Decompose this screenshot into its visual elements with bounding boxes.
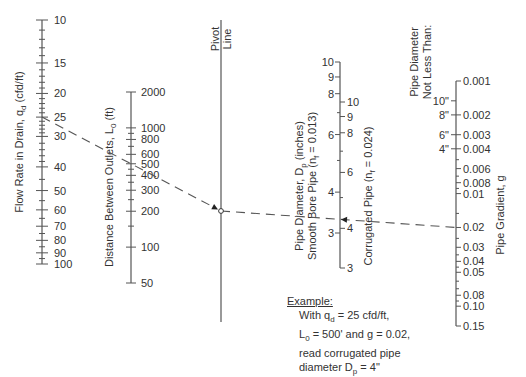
flow-tick-label: 30 (54, 130, 66, 142)
distance-tick-label: 300 (141, 184, 159, 196)
smooth-pipe-tick-label: 9 (328, 71, 334, 83)
example-line-2: L0 = 500' and g = 0.02, (299, 327, 410, 346)
smooth-pipe-tick-label: 10 (322, 56, 334, 68)
flow-tick-label: 100 (54, 258, 72, 270)
flow-axis-title: Flow Rate in Drain, qd (cfd/ft) (13, 71, 28, 212)
distance-tick-label: 400 (141, 169, 159, 181)
corrugated-pipe-tick-label: 10 (347, 96, 359, 108)
gradient-tick-label: 0.006 (463, 163, 491, 175)
example-heading: Example: (287, 294, 410, 308)
corrugated-pipe-tick-label: 4 (347, 222, 353, 234)
distance-axis-title: Distance Between Outlets, L0 (ft) (103, 107, 118, 267)
min-diameter-title-2: Not Less Than: (421, 25, 433, 99)
flow-tick-label: 60 (54, 204, 66, 216)
distance-tick-label: 100 (141, 241, 159, 253)
solution-line-1 (42, 117, 217, 209)
pivot-point-marker (219, 209, 224, 214)
distance-tick-label: 2000 (141, 86, 165, 98)
flow-tick-label: 80 (54, 234, 66, 246)
smooth-pipe-axis-subtitle: Smooth Bore Pipe (nf = 0.013) (306, 112, 321, 260)
gradient-tick-label: 0.15 (463, 320, 484, 332)
nomograph: 1015202530405060708090100200010008006005… (0, 0, 526, 377)
min-diameter-title: Pipe Diameter (408, 27, 420, 97)
flow-tick-label: 70 (54, 220, 66, 232)
min-diameter-label: 8" (439, 109, 449, 121)
smooth-pipe-tick-label: 8 (328, 88, 334, 100)
gradient-tick-label: 0.10 (463, 300, 484, 312)
flow-tick-label: 10 (54, 14, 66, 26)
min-diameter-label: 4" (439, 143, 449, 155)
pivot-line-label-2: Line (221, 29, 233, 50)
gradient-tick-label: 0.004 (463, 143, 491, 155)
gradient-axis-title: Pipe Gradient, g (494, 175, 506, 255)
example-text: With qd = 25 cfd/ft, L0 = 500' and g = 0… (287, 308, 410, 377)
solution-line-2 (221, 211, 456, 227)
gradient-tick-label: 0.003 (463, 129, 491, 141)
min-diameter-label: 6" (439, 129, 449, 141)
flow-tick-label: 20 (54, 87, 66, 99)
distance-tick-label: 50 (141, 277, 153, 289)
flow-tick-label: 15 (54, 57, 66, 69)
corrugated-pipe-tick-label: 9 (347, 111, 353, 123)
distance-tick-label: 800 (141, 133, 159, 145)
corrugated-pipe-tick-label: 3 (347, 262, 353, 274)
smooth-pipe-tick-label: 6 (328, 129, 334, 141)
flow-tick-label: 25 (54, 111, 66, 123)
arrow-head-pipe-icon (341, 217, 347, 223)
gradient-tick-label: 0.001 (463, 75, 491, 87)
flow-tick-label: 40 (54, 161, 66, 173)
distance-tick-label: 500 (141, 158, 159, 170)
example-box: Example: With qd = 25 cfd/ft, L0 = 500' … (287, 294, 410, 377)
arrow-head-pivot-icon (211, 204, 218, 209)
corrugated-pipe-axis-title: Corrugated Pipe (nf = 0.024) (362, 127, 377, 266)
example-line-4: diameter Dp = 4" (299, 360, 410, 377)
example-line-3: read corrugated pipe (299, 346, 410, 360)
gradient-tick-label: 0.002 (463, 109, 491, 121)
distance-tick-label: 200 (141, 205, 159, 217)
smooth-pipe-tick-label: 3 (328, 227, 334, 239)
gradient-tick-label: 0.01 (463, 188, 484, 200)
gradient-tick-label: 0.05 (463, 266, 484, 278)
pivot-line-label: Pivot (209, 27, 221, 51)
example-line-1: With qd = 25 cfd/ft, (299, 308, 410, 327)
min-diameter-label: 10" (433, 95, 449, 107)
corrugated-pipe-tick-label: 6 (347, 166, 353, 178)
flow-tick-label: 50 (54, 185, 66, 197)
smooth-pipe-tick-label: 4 (328, 186, 334, 198)
corrugated-pipe-tick-label: 8 (347, 127, 353, 139)
distance-tick-label: 1000 (141, 122, 165, 134)
gradient-tick-label: 0.03 (463, 241, 484, 253)
gradient-tick-label: 0.02 (463, 221, 484, 233)
